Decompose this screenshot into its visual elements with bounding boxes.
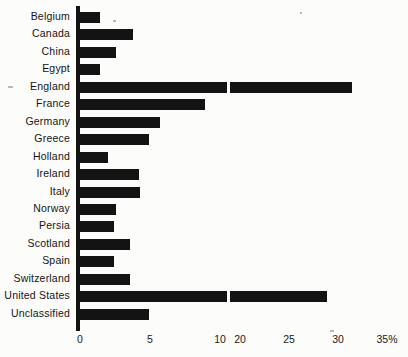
bar bbox=[80, 47, 116, 58]
category-label: Unclassified bbox=[11, 308, 70, 319]
category-label: Spain bbox=[42, 255, 70, 266]
tick-label: 5 bbox=[147, 333, 153, 346]
scan-speck bbox=[330, 330, 334, 332]
bar bbox=[80, 204, 116, 215]
tick-label: 25 bbox=[283, 333, 295, 346]
scan-speck bbox=[113, 20, 116, 22]
category-label: Switzerland bbox=[14, 273, 70, 284]
bar bbox=[80, 309, 149, 320]
clipped-caption bbox=[0, 349, 408, 357]
category-label: England bbox=[30, 81, 70, 92]
scan-speck bbox=[8, 86, 13, 88]
bar bbox=[80, 12, 100, 23]
tick-label: 35% bbox=[376, 333, 397, 346]
scan-speck bbox=[300, 12, 302, 14]
tick-label: 20 bbox=[234, 333, 246, 346]
category-label: China bbox=[42, 46, 70, 57]
bar-chart: BelgiumCanadaChinaEgyptEnglandFranceGerm… bbox=[0, 0, 408, 357]
category-label: United States bbox=[4, 290, 70, 301]
bar bbox=[80, 274, 130, 285]
tick-label: 10 bbox=[214, 333, 226, 346]
value-axis-tick-labels: 051020253035% bbox=[0, 333, 408, 349]
category-label: France bbox=[36, 98, 70, 109]
category-label: Italy bbox=[50, 186, 70, 197]
bar bbox=[80, 64, 100, 75]
bar bbox=[80, 221, 114, 232]
category-label: Canada bbox=[32, 28, 70, 39]
category-label: Scotland bbox=[28, 238, 70, 249]
bar bbox=[80, 29, 133, 40]
category-label: Germany bbox=[25, 116, 70, 127]
category-label: Greece bbox=[34, 133, 70, 144]
bar bbox=[80, 82, 227, 93]
bar bbox=[80, 117, 160, 128]
bar-after-break bbox=[230, 82, 352, 93]
bar bbox=[80, 99, 205, 110]
bar bbox=[80, 169, 139, 180]
category-label: Egypt bbox=[42, 63, 70, 74]
bar bbox=[80, 152, 108, 163]
plot-area: BelgiumCanadaChinaEgyptEnglandFranceGerm… bbox=[0, 0, 408, 357]
bar-after-break bbox=[230, 291, 327, 302]
tick-label: 0 bbox=[77, 333, 83, 346]
bar bbox=[80, 291, 227, 302]
bar bbox=[80, 134, 149, 145]
category-label: Belgium bbox=[31, 11, 70, 22]
category-label: Norway bbox=[33, 203, 70, 214]
category-label: Holland bbox=[33, 151, 70, 162]
tick-label: 30 bbox=[332, 333, 344, 346]
bar bbox=[80, 239, 130, 250]
category-label: Persia bbox=[39, 220, 70, 231]
bar bbox=[80, 256, 114, 267]
category-axis-labels: BelgiumCanadaChinaEgyptEnglandFranceGerm… bbox=[0, 0, 74, 330]
category-label: Ireland bbox=[36, 168, 70, 179]
bar bbox=[80, 187, 140, 198]
bar-series bbox=[80, 0, 408, 332]
